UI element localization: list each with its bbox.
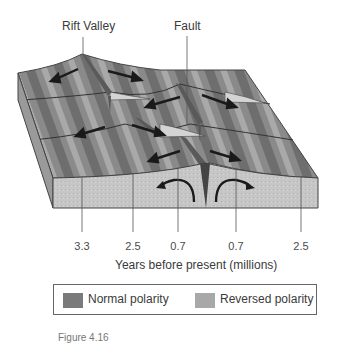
age-tick-label: 0.7 — [228, 240, 243, 252]
legend-label-normal: Normal polarity — [88, 292, 169, 306]
age-tick-label: 2.5 — [293, 240, 308, 252]
age-tick-label: 0.7 — [170, 240, 185, 252]
legend-label-reversed: Reversed polarity — [220, 292, 313, 306]
reversed-polarity-swatch — [195, 293, 215, 308]
normal-polarity-swatch — [63, 293, 83, 308]
fault-label: Fault — [174, 19, 201, 33]
axis-title: Years before present (millions) — [115, 258, 277, 272]
legend: Normal polarity Reversed polarity — [53, 284, 317, 315]
block-top-surface — [18, 54, 318, 178]
age-tick-label: 2.5 — [125, 240, 140, 252]
rift-valley-label: Rift Valley — [62, 19, 115, 33]
age-tick-label: 3.3 — [74, 240, 89, 252]
figure-caption: Figure 4.16 — [58, 332, 109, 343]
